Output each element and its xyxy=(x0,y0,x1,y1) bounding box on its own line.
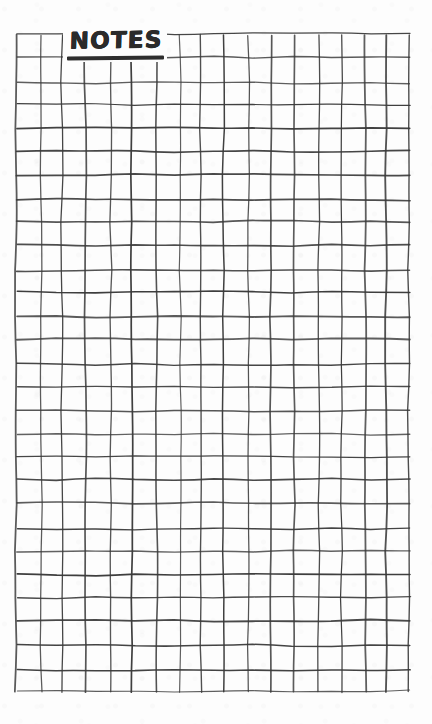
title-underline xyxy=(67,56,164,61)
page-title-block: NOTES xyxy=(66,27,166,61)
page-title: NOTES xyxy=(66,26,167,53)
notes-page: NOTES xyxy=(0,0,432,724)
hand-drawn-grid xyxy=(0,0,432,724)
